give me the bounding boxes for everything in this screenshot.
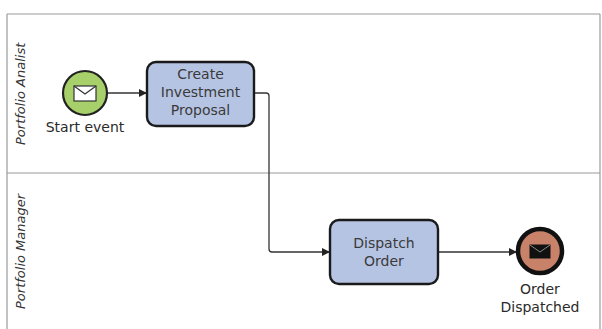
envelope-icon [74, 86, 96, 101]
pool [7, 14, 600, 329]
task-label-line: Proposal [171, 102, 230, 118]
lane-label-manager: Portfolio Manager [13, 192, 28, 309]
task-box [330, 220, 438, 284]
end-event-label-line: Dispatched [501, 299, 580, 315]
task-label-line: Order [364, 253, 404, 269]
task-label-line: Investment [161, 84, 241, 100]
start-event[interactable]: Start event [46, 71, 125, 135]
task-label-line: Create [177, 66, 224, 82]
lane-portfolio-analist[interactable]: Portfolio Analist [13, 42, 28, 145]
task-dispatch-order[interactable]: Dispatch Order [330, 220, 438, 284]
lane-label-analist: Portfolio Analist [13, 42, 28, 145]
start-event-label: Start event [46, 119, 125, 135]
end-event[interactable]: Order Dispatched [501, 229, 580, 315]
bpmn-diagram: Portfolio Analist Portfolio Manager Star… [0, 0, 602, 329]
end-event-label-line: Order [520, 281, 560, 297]
task-create-investment-proposal[interactable]: Create Investment Proposal [147, 62, 254, 126]
envelope-filled-icon [530, 245, 550, 258]
lane-portfolio-manager[interactable]: Portfolio Manager [13, 192, 28, 309]
task-label-line: Dispatch [353, 235, 415, 251]
